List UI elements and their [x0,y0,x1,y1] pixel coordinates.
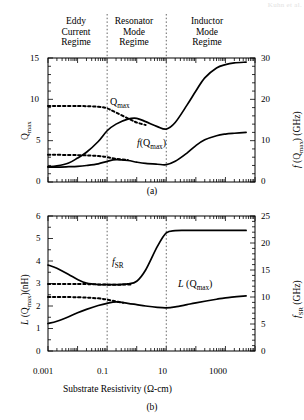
series-dashed [48,106,146,125]
series-solid [48,132,246,167]
series-solid [48,230,246,284]
plot-svg [0,0,304,420]
panel-b-plot [48,216,255,351]
series-dashed [48,284,132,285]
series-dashed [48,155,128,160]
panel-a-plot [48,14,255,182]
series-solid [48,296,246,324]
series-solid [48,62,246,167]
figure-container: Kuhn et al. Eddy Current Regime Resonato… [0,0,304,420]
